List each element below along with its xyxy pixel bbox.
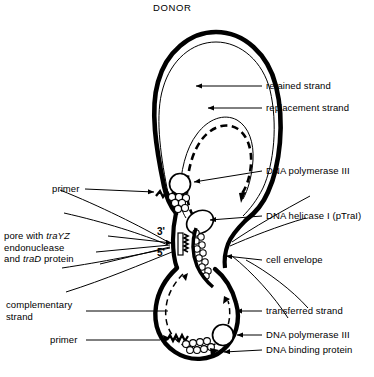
label-pore-with-trayz: pore with traYZ endonuclease and traD pr… — [4, 230, 114, 265]
gene-name-trayz: traYZ — [46, 230, 70, 241]
label-dna-helicase: DNA helicase I (pTraI) — [266, 210, 361, 222]
pore-line-3-suffix: protein — [41, 253, 74, 264]
label-primer-bottom: primer — [50, 334, 78, 346]
label-three-prime-end: 3' — [157, 226, 165, 237]
transferring-strand-beads — [193, 230, 211, 279]
replacement-strand-dashed — [187, 126, 251, 216]
label-dna-polymerase-iii-bottom: DNA polymerase III — [266, 329, 350, 341]
pore-line-2: endonuclease — [4, 242, 64, 253]
pore-line-3-prefix: and — [4, 253, 23, 264]
complementary-strand-line-2: strand — [6, 311, 33, 322]
pore-line-1-prefix: pore with — [4, 230, 46, 241]
gene-name-trad: traD — [23, 253, 41, 264]
label-complementary-strand: complementary strand — [6, 299, 86, 322]
label-cell-envelope: cell envelope — [266, 254, 323, 266]
label-replacement-strand: replacement strand — [266, 102, 349, 114]
label-primer-top: primer — [52, 183, 80, 195]
complementary-strand-line-1: complementary — [6, 299, 72, 310]
label-five-prime-end: 5' — [157, 247, 165, 258]
label-dna-polymerase-iii-top: DNA polymerase III — [266, 165, 350, 177]
label-transferred-strand: transferred strand — [266, 305, 343, 317]
label-retained-strand: retained strand — [266, 80, 331, 92]
figure-title: DONOR — [153, 2, 191, 13]
label-dna-binding-protein: DNA binding protein — [266, 344, 352, 356]
dna-polymerase-iii-circle-top — [170, 174, 191, 195]
dna-polymerase-iii-circle-bottom — [213, 325, 234, 346]
figure-canvas: DONOR retained strand replacement strand… — [0, 0, 374, 377]
dna-binding-protein-beads-bottom — [183, 338, 215, 354]
